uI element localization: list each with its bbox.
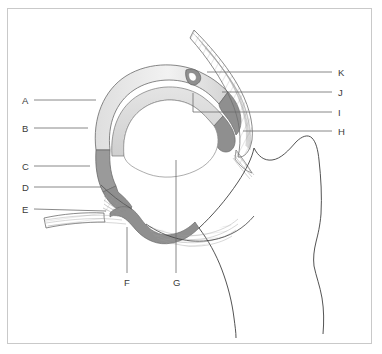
label-f[interactable]: F — [124, 278, 130, 288]
leader-line-e — [34, 209, 106, 211]
label-b[interactable]: B — [22, 124, 29, 134]
label-a[interactable]: A — [22, 96, 29, 106]
label-i[interactable]: I — [338, 108, 341, 118]
label-k[interactable]: K — [338, 68, 345, 78]
label-g[interactable]: G — [173, 278, 181, 288]
label-d[interactable]: D — [22, 183, 29, 193]
figure-page: ABCDEFGHIJK — [0, 0, 382, 354]
inferior-capsule-sheet — [44, 213, 254, 247]
label-c[interactable]: C — [22, 162, 29, 172]
label-h[interactable]: H — [338, 127, 345, 137]
inferior-sheet-outline — [44, 213, 105, 228]
label-j[interactable]: J — [338, 88, 343, 98]
anatomy-illustration — [0, 0, 382, 354]
label-e[interactable]: E — [22, 205, 29, 215]
greater-trochanter-outline — [254, 136, 324, 334]
